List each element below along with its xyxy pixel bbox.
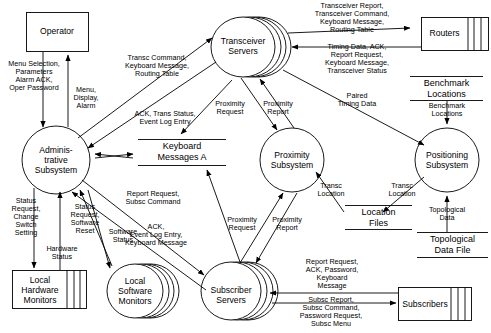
flow-label-subscriber-to-proximity: Proximity Request	[219, 216, 265, 232]
node-label-operator: Operator	[27, 26, 87, 36]
node-label-transceiver-servers: Transceiver Servers	[213, 36, 273, 56]
node-label-location-files: Location Files	[345, 207, 412, 228]
flow-label-topological-to-positioning: Topological Data	[415, 206, 479, 222]
flow-label-transceiver-to-routers: Transceiver Report, Transceiver Command,…	[296, 2, 408, 34]
node-label-local-hardware-monitors: Local Hardware Monitors	[13, 275, 67, 305]
flow-label-routers-to-transceiver: Timing Data, ACK, Report Request, Keyboa…	[303, 43, 411, 75]
flow-label-proximity-to-transceiver: Proximity Report	[256, 100, 300, 116]
flow-label-subscribers-to-subscriber-servers: Report Request, ACK, Password, Keyboard …	[278, 258, 386, 290]
flow-label-admin-to-operator: Menu, Display, Alarm	[66, 86, 106, 110]
flow-label-transceiver-to-proximity: Proximity Request	[207, 100, 253, 116]
node-label-positioning-subsystem: Positioning Subsystem	[412, 150, 482, 170]
dataflow-diagram-canvas: Operator Transceiver Servers Routers Ben…	[0, 0, 491, 333]
node-label-subscriber-servers: Subscriber Servers	[199, 285, 263, 305]
flow-label-proximity-to-subscriber: Proximity Report	[265, 216, 309, 232]
node-label-administrative-subsystem: Adminis- trative Subsystem	[22, 145, 90, 175]
flow-label-transceiver-to-positioning: Paired Timing Data	[329, 92, 385, 108]
flow-label-admin-to-transceiver: Transc Command, Keyboard Message, Routin…	[108, 54, 206, 78]
flow-label-admin-to-hw-monitors: Status Request, Change Switch Setting	[2, 197, 50, 237]
flow-label-subscriber-servers-to-subscribers: Subsc Report, Subsc Command, Password Re…	[275, 296, 387, 328]
flow-label-sw-monitors-to-admin: Software Status	[100, 228, 146, 244]
flow-label-hw-monitors-to-admin: Hardware Status	[38, 245, 86, 261]
flow-label-positioning-to-location-files: Transc Location	[380, 182, 424, 198]
node-label-local-software-monitors: Local Software Monitors	[105, 276, 165, 306]
node-label-topological-data-file: Topological Data File	[417, 234, 488, 255]
flow-label-transceiver-to-admin: ACK, Trans Status, Event Log Entry	[116, 110, 214, 126]
node-label-subscribers: Subscribers	[399, 299, 451, 309]
node-label-routers: Routers	[422, 28, 467, 38]
node-label-benchmark-locations-store: Benchmark Locations	[410, 78, 483, 99]
node-label-keyboard-messages-a: Keyboard Messages A	[138, 141, 226, 162]
node-label-proximity-subsystem: Proximity Subsystem	[259, 150, 325, 170]
flow-label-admin-to-subscriber: Report Request, Subsc Command	[106, 190, 200, 206]
flow-label-benchmark-to-positioning: Benchmark Locations	[413, 102, 481, 118]
flow-label-location-files-to-proximity: Transc Location	[310, 182, 352, 198]
flow-label-operator-to-admin: Menu Selection, Parameters Alarm ACK, Op…	[0, 60, 70, 92]
